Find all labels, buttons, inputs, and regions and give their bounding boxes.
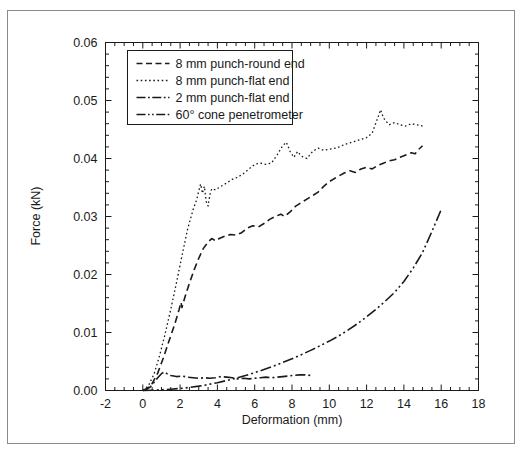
series-line-1: [143, 146, 423, 391]
y-axis-tick-labels: 0.000.010.020.030.040.050.06: [73, 36, 97, 398]
x-tick-label: 8: [289, 397, 296, 411]
series-line-2: [143, 110, 423, 391]
force-deformation-chart: -2024681012141618 0.000.010.020.030.040.…: [0, 0, 525, 455]
chart-legend: 8 mm punch-round end8 mm punch-flat end2…: [128, 51, 305, 125]
x-tick-label: 12: [360, 397, 374, 411]
x-tick-label: 14: [397, 397, 411, 411]
y-tick-label: 0.04: [73, 152, 97, 166]
data-series-group: [143, 110, 441, 391]
legend-label-2: 8 mm punch-flat end: [176, 74, 290, 88]
y-axis-title: Force (kN): [29, 186, 43, 245]
legend-label-3: 2 mm punch-flat end: [176, 91, 290, 105]
y-tick-label: 0.00: [73, 384, 97, 398]
y-tick-label: 0.05: [73, 94, 97, 108]
x-tick-label: -2: [100, 397, 111, 411]
x-tick-label: 16: [434, 397, 448, 411]
legend-label-1: 8 mm punch-round end: [176, 57, 305, 71]
x-tick-label: 4: [214, 397, 221, 411]
y-tick-label: 0.01: [73, 326, 97, 340]
x-axis-title: Deformation (mm): [242, 413, 343, 427]
x-tick-label: 2: [177, 397, 184, 411]
series-line-4: [143, 210, 441, 391]
legend-label-4: 60° cone penetrometer: [176, 108, 303, 122]
y-tick-label: 0.02: [73, 268, 97, 282]
y-tick-label: 0.06: [73, 36, 97, 50]
x-axis-tick-labels: -2024681012141618: [100, 397, 486, 411]
y-tick-label: 0.03: [73, 210, 97, 224]
x-tick-label: 0: [139, 397, 146, 411]
x-tick-label: 6: [251, 397, 258, 411]
figure-root: -2024681012141618 0.000.010.020.030.040.…: [0, 0, 525, 455]
x-tick-label: 10: [322, 397, 336, 411]
x-tick-label: 18: [472, 397, 486, 411]
